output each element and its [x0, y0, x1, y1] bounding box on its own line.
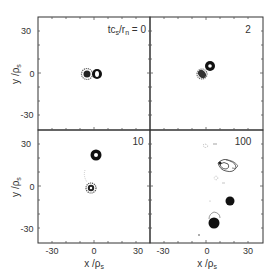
x-tick-30-right: 30 — [243, 246, 253, 256]
x-axis-label-right: x /ρs — [197, 258, 217, 270]
vortex-pair-t2 — [195, 61, 215, 81]
y-tick-0-top: 0 — [29, 69, 34, 79]
panel-label-time-100: 100 — [235, 136, 252, 147]
x-tick-labels: -30 0 30 -30 0 30 — [45, 246, 253, 256]
y-tick-m30-bottom: -30 — [20, 224, 33, 234]
y-tick-30-top: 30 — [21, 26, 31, 36]
vortex-pair-t0 — [82, 69, 103, 80]
y-tick-30-bottom: 30 — [21, 139, 31, 149]
svg-text:y /ρs: y /ρs — [10, 64, 22, 84]
vortex-pair-t10 — [84, 150, 101, 194]
x-tick-m30-right: -30 — [156, 246, 169, 256]
panel-label-time-10: 10 — [132, 136, 144, 147]
y-axis-label-bottom: y /ρs — [10, 177, 22, 197]
panel-frames — [38, 17, 263, 243]
panel-label-time-0: tcs/rn = 0 — [108, 24, 147, 36]
figure: 30 0 -30 30 0 -30 y /ρs y /ρs -30 0 30 -… — [0, 0, 276, 279]
x-tick-30-left: 30 — [133, 246, 143, 256]
x-axis-label-left: x /ρs — [84, 258, 104, 270]
vortex-field-t100 — [198, 144, 238, 236]
y-tick-0-bottom: 0 — [29, 182, 34, 192]
svg-text:y /ρs: y /ρs — [10, 177, 22, 197]
x-tick-0-left: 0 — [91, 246, 96, 256]
y-axis-label-top: y /ρs — [10, 64, 22, 84]
panel-label-time-2: 2 — [245, 24, 251, 35]
y-tick-labels: 30 0 -30 30 0 -30 — [20, 26, 34, 234]
y-tick-m30-top: -30 — [20, 110, 33, 120]
x-tick-m30-left: -30 — [45, 246, 58, 256]
x-tick-0-right: 0 — [204, 246, 209, 256]
